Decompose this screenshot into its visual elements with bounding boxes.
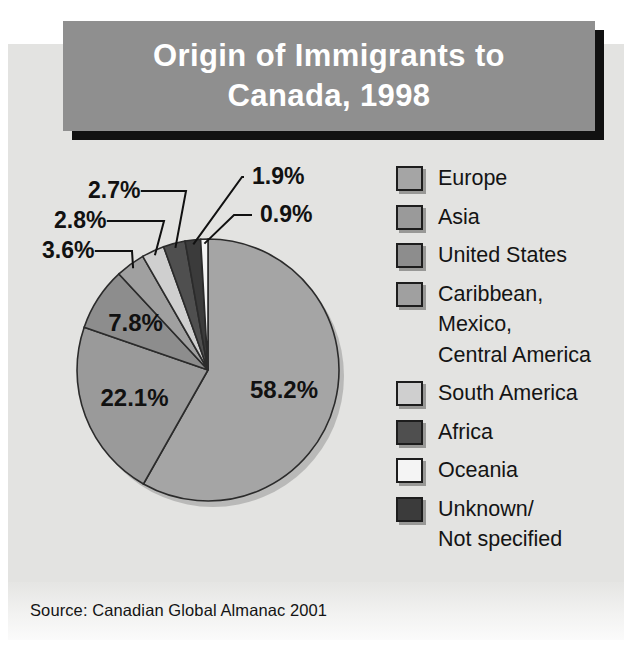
legend-swatch-oceania (396, 458, 423, 483)
legend-item-europe[interactable]: Europe (396, 163, 628, 194)
legend-label-unknown-line2: Not specified (438, 524, 562, 555)
legend-swatch-asia (396, 205, 423, 230)
pie-value-europe: 58.2% (250, 376, 318, 403)
legend-item-caribbean[interactable]: Caribbean, Mexico, Central America (396, 279, 628, 371)
page-title-line1: Origin of Immigrants to (153, 38, 505, 73)
leader-line-caribbean-mexico-central-america (95, 251, 133, 268)
legend: Europe Asia United States Caribb (396, 163, 628, 563)
legend-label-unknown: Unknown/ Not specified (438, 494, 562, 555)
legend-label-caribbean-line3: Central America (438, 340, 591, 371)
legend-label-europe: Europe (438, 163, 507, 194)
legend-item-united-states[interactable]: United States (396, 240, 628, 271)
legend-swatch-unknown (396, 497, 423, 522)
legend-swatch-united-states (396, 243, 423, 268)
legend-item-africa[interactable]: Africa (396, 417, 628, 448)
leader-line-africa (141, 191, 186, 248)
legend-label-south-america: South America (438, 378, 578, 409)
pie-value-caribbean-mexico-central-america: 3.6% (42, 237, 94, 263)
legend-label-asia: Asia (438, 202, 480, 233)
pie-slices (77, 239, 344, 507)
legend-swatch-africa (396, 420, 423, 445)
legend-label-united-states: United States (438, 240, 567, 271)
pie-value-oceania: 0.9% (260, 201, 312, 227)
legend-item-asia[interactable]: Asia (396, 202, 628, 233)
legend-item-south-america[interactable]: South America (396, 378, 628, 409)
legend-label-africa: Africa (438, 417, 493, 448)
legend-swatch-south-america (396, 381, 423, 406)
title-banner: Origin of Immigrants to Canada, 1998 (63, 21, 595, 131)
legend-swatch-caribbean (396, 282, 423, 307)
pie-value-unknown-not-specified: 1.9% (252, 163, 304, 189)
legend-swatch-europe (396, 166, 423, 191)
pie-chart: 58.2%22.1%7.8% 3.6%2.8%2.7%1.9%0.9% (14, 160, 392, 580)
pie-value-asia: 22.1% (100, 384, 168, 411)
source-note: Source: Canadian Global Almanac 2001 (30, 601, 327, 620)
pie-value-south-america: 2.8% (54, 207, 106, 233)
pie-value-united-states: 7.8% (108, 309, 163, 336)
pie-value-africa: 2.7% (88, 177, 140, 203)
pie-chart-svg: 58.2%22.1%7.8% 3.6%2.8%2.7%1.9%0.9% (14, 160, 392, 580)
legend-item-oceania[interactable]: Oceania (396, 455, 628, 486)
legend-label-caribbean-line2: Mexico, (438, 309, 591, 340)
legend-item-unknown[interactable]: Unknown/ Not specified (396, 494, 628, 555)
page-title: Origin of Immigrants to Canada, 1998 (139, 36, 519, 115)
legend-label-caribbean: Caribbean, Mexico, Central America (438, 279, 591, 371)
legend-label-oceania: Oceania (438, 455, 518, 486)
chart-figure: Origin of Immigrants to Canada, 1998 58.… (0, 0, 634, 659)
page-title-line2: Canada, 1998 (228, 78, 431, 113)
leader-line-unknown-not-specified (193, 177, 244, 244)
